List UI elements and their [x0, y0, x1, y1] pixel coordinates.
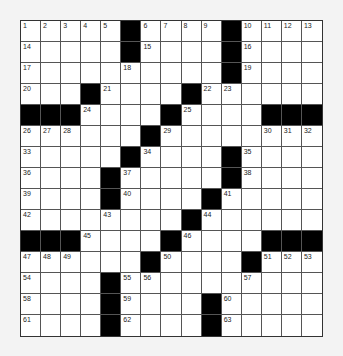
crossword-cell[interactable] — [182, 147, 202, 168]
crossword-cell[interactable] — [141, 84, 161, 105]
crossword-cell[interactable] — [61, 63, 81, 84]
crossword-cell[interactable] — [202, 231, 222, 252]
crossword-cell[interactable]: 38 — [242, 168, 262, 189]
crossword-cell[interactable] — [81, 42, 101, 63]
crossword-cell[interactable] — [81, 315, 101, 336]
crossword-cell[interactable]: 42 — [21, 210, 41, 231]
crossword-cell[interactable]: 2 — [41, 21, 61, 42]
crossword-cell[interactable]: 36 — [21, 168, 41, 189]
crossword-cell[interactable] — [81, 63, 101, 84]
crossword-cell[interactable] — [242, 189, 262, 210]
crossword-cell[interactable]: 3 — [61, 21, 81, 42]
crossword-cell[interactable] — [282, 84, 302, 105]
crossword-cell[interactable]: 47 — [21, 252, 41, 273]
crossword-cell[interactable]: 50 — [161, 252, 181, 273]
crossword-cell[interactable] — [41, 84, 61, 105]
crossword-cell[interactable] — [222, 273, 242, 294]
crossword-cell[interactable]: 8 — [182, 21, 202, 42]
crossword-cell[interactable] — [182, 63, 202, 84]
crossword-cell[interactable] — [222, 231, 242, 252]
crossword-cell[interactable]: 48 — [41, 252, 61, 273]
crossword-cell[interactable] — [121, 252, 141, 273]
crossword-cell[interactable]: 21 — [101, 84, 121, 105]
crossword-cell[interactable]: 30 — [262, 126, 282, 147]
crossword-cell[interactable] — [242, 231, 262, 252]
crossword-cell[interactable]: 49 — [61, 252, 81, 273]
crossword-cell[interactable] — [41, 42, 61, 63]
crossword-cell[interactable] — [81, 294, 101, 315]
crossword-cell[interactable]: 39 — [21, 189, 41, 210]
crossword-cell[interactable]: 61 — [21, 315, 41, 336]
crossword-cell[interactable]: 60 — [222, 294, 242, 315]
crossword-cell[interactable] — [242, 84, 262, 105]
crossword-cell[interactable] — [202, 105, 222, 126]
crossword-cell[interactable] — [161, 315, 181, 336]
crossword-cell[interactable] — [41, 273, 61, 294]
crossword-cell[interactable] — [302, 84, 322, 105]
crossword-cell[interactable] — [61, 273, 81, 294]
crossword-cell[interactable]: 1 — [21, 21, 41, 42]
crossword-cell[interactable] — [282, 189, 302, 210]
crossword-cell[interactable] — [81, 189, 101, 210]
crossword-cell[interactable]: 41 — [222, 189, 242, 210]
crossword-cell[interactable] — [282, 63, 302, 84]
crossword-cell[interactable]: 23 — [222, 84, 242, 105]
crossword-cell[interactable] — [302, 42, 322, 63]
crossword-cell[interactable] — [161, 273, 181, 294]
crossword-cell[interactable] — [101, 126, 121, 147]
crossword-cell[interactable] — [302, 168, 322, 189]
crossword-cell[interactable]: 43 — [101, 210, 121, 231]
crossword-cell[interactable] — [41, 63, 61, 84]
crossword-cell[interactable] — [182, 42, 202, 63]
crossword-cell[interactable] — [141, 168, 161, 189]
crossword-cell[interactable]: 6 — [141, 21, 161, 42]
crossword-cell[interactable] — [141, 105, 161, 126]
crossword-cell[interactable] — [182, 294, 202, 315]
crossword-cell[interactable] — [161, 84, 181, 105]
crossword-cell[interactable] — [41, 294, 61, 315]
crossword-cell[interactable] — [262, 210, 282, 231]
crossword-cell[interactable] — [101, 42, 121, 63]
crossword-cell[interactable] — [282, 294, 302, 315]
crossword-cell[interactable] — [161, 42, 181, 63]
crossword-cell[interactable]: 4 — [81, 21, 101, 42]
crossword-cell[interactable]: 34 — [141, 147, 161, 168]
crossword-cell[interactable] — [302, 315, 322, 336]
crossword-cell[interactable] — [182, 126, 202, 147]
crossword-cell[interactable] — [41, 168, 61, 189]
crossword-cell[interactable] — [161, 189, 181, 210]
crossword-cell[interactable] — [182, 273, 202, 294]
crossword-cell[interactable]: 12 — [282, 21, 302, 42]
crossword-cell[interactable] — [101, 231, 121, 252]
crossword-cell[interactable] — [101, 252, 121, 273]
crossword-cell[interactable]: 20 — [21, 84, 41, 105]
crossword-cell[interactable] — [161, 63, 181, 84]
crossword-cell[interactable] — [141, 189, 161, 210]
crossword-cell[interactable]: 22 — [202, 84, 222, 105]
crossword-cell[interactable]: 57 — [242, 273, 262, 294]
crossword-cell[interactable] — [202, 168, 222, 189]
crossword-cell[interactable]: 44 — [202, 210, 222, 231]
crossword-cell[interactable] — [262, 294, 282, 315]
crossword-cell[interactable] — [81, 168, 101, 189]
crossword-cell[interactable] — [41, 189, 61, 210]
crossword-cell[interactable]: 16 — [242, 42, 262, 63]
crossword-cell[interactable] — [81, 252, 101, 273]
crossword-cell[interactable]: 28 — [61, 126, 81, 147]
crossword-cell[interactable]: 62 — [121, 315, 141, 336]
crossword-cell[interactable] — [61, 84, 81, 105]
crossword-cell[interactable] — [282, 315, 302, 336]
crossword-cell[interactable]: 24 — [81, 105, 101, 126]
crossword-cell[interactable] — [302, 210, 322, 231]
crossword-cell[interactable] — [121, 126, 141, 147]
crossword-cell[interactable] — [282, 273, 302, 294]
crossword-cell[interactable]: 18 — [121, 63, 141, 84]
crossword-cell[interactable] — [282, 42, 302, 63]
crossword-cell[interactable]: 33 — [21, 147, 41, 168]
crossword-cell[interactable]: 63 — [222, 315, 242, 336]
crossword-cell[interactable]: 54 — [21, 273, 41, 294]
crossword-cell[interactable] — [41, 315, 61, 336]
crossword-cell[interactable] — [202, 147, 222, 168]
crossword-cell[interactable] — [222, 105, 242, 126]
crossword-cell[interactable]: 31 — [282, 126, 302, 147]
